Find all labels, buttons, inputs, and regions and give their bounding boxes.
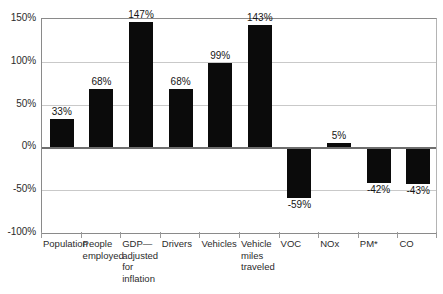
bar <box>367 147 391 183</box>
bar <box>50 119 74 147</box>
y-axis-tick-label: 150% <box>0 13 36 23</box>
bar-value-label: 5% <box>316 131 362 141</box>
x-axis-category-label: CO <box>399 238 443 250</box>
plot-area: 33%68%147%68%99%143%-59%5%-42%-43% <box>41 18 437 232</box>
bar <box>287 147 311 198</box>
x-axis-labels: PopulationPeople employedGDP— adjusted f… <box>41 238 441 294</box>
bar <box>248 25 272 147</box>
y-axis-labels: 150%100%50%0%-50%-100% <box>0 0 36 294</box>
bar-value-label: 33% <box>39 107 85 117</box>
bar-value-label: 68% <box>78 77 124 87</box>
bar <box>208 63 232 148</box>
bar-value-label: -43% <box>395 186 441 196</box>
y-axis-tick-label: 100% <box>0 56 36 66</box>
bar-value-label: 143% <box>237 13 283 23</box>
bar-chart: 150%100%50%0%-50%-100% 33%68%147%68%99%1… <box>0 0 443 294</box>
bar <box>89 89 113 147</box>
bar-value-label: -59% <box>276 200 322 210</box>
y-axis-tick-label: 0% <box>0 141 36 151</box>
gridline <box>42 62 436 63</box>
y-axis-tick-label: -50% <box>0 184 36 194</box>
bar <box>129 22 153 148</box>
zero-baseline <box>42 147 436 148</box>
y-axis-tick-label: 50% <box>0 99 36 109</box>
bar-value-label: 68% <box>158 77 204 87</box>
bar <box>169 89 193 147</box>
bar-value-label: 99% <box>197 51 243 61</box>
y-axis-tick-label: -100% <box>0 227 36 237</box>
bar-value-label: 147% <box>118 10 164 20</box>
bar <box>406 147 430 184</box>
